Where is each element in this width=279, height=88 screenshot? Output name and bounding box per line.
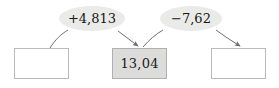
node-box-middle[interactable]: 13,04 — [112, 48, 167, 79]
arrow-add-to-middle — [118, 31, 138, 46]
arrow-left-to-add — [50, 30, 68, 48]
diagram-canvas: 13,04 +4,813 −7,62 — [0, 0, 279, 88]
operation-label-add-text: +4,813 — [68, 12, 116, 25]
operation-label-subtract: −7,62 — [160, 6, 222, 31]
operation-label-subtract-text: −7,62 — [171, 12, 211, 25]
arrow-middle-to-sub — [143, 30, 163, 47]
node-value-middle: 13,04 — [120, 57, 158, 70]
operation-label-add: +4,813 — [59, 6, 125, 31]
node-box-right[interactable] — [211, 48, 266, 79]
node-box-left[interactable] — [14, 48, 69, 79]
arrow-sub-to-right — [216, 30, 240, 46]
